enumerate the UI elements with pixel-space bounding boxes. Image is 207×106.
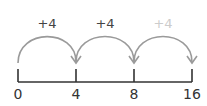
number-line: [18, 69, 192, 82]
tick-label-0: 0: [14, 87, 23, 101]
jump-arc-2: [76, 37, 134, 63]
tick-label-16: 16: [183, 87, 201, 101]
jump-label-2: +4: [95, 17, 114, 30]
tick-label-8: 8: [130, 87, 139, 101]
tick-label-4: 4: [72, 87, 81, 101]
jump-arc-1: [18, 37, 76, 63]
jump-arcs: [18, 37, 197, 64]
jump-arc-3: [134, 37, 192, 63]
jump-label-3: +4: [153, 17, 172, 30]
jump-label-1: +4: [37, 17, 56, 30]
